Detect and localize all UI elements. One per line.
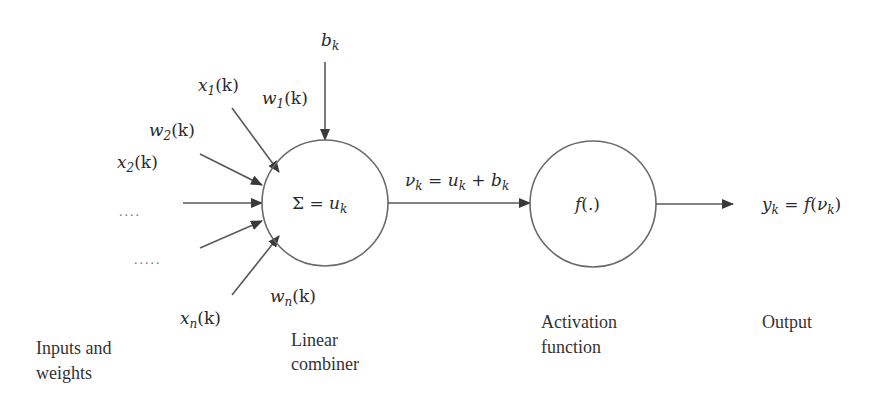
label-x1: x1(k) [198,75,239,98]
caption-linear-combiner-line2: combiner [291,354,359,374]
caption-linear-combiner-line1: Linear [291,330,338,350]
caption-output: Output [762,312,812,332]
label-bias: bk [321,30,339,53]
label-wn: wn(k) [270,286,316,309]
label-x2: x2(k) [117,152,158,175]
dots-upper: .... [119,204,141,219]
label-induced-field: νk = uk + bk [405,170,509,193]
dots-lower: ..... [134,252,162,267]
label-w2: w2(k) [149,120,195,143]
label-activation-function: f(.) [573,194,600,214]
caption-activation-line1: Activation [541,312,617,332]
label-xn: xn(k) [180,308,221,331]
caption-activation-line2: function [541,337,601,357]
label-w1: w1(k) [262,88,308,111]
label-summation: Σ = uk [292,193,347,216]
label-output-equation: yk = f(νk) [761,194,841,217]
caption-inputs-weights-line1: Inputs and [36,338,112,358]
input-arrow-4 [200,221,262,248]
input-arrow-2 [200,154,262,185]
caption-inputs-weights-line2: weights [36,363,92,383]
input-arrow-1 [232,108,279,172]
neuron-diagram: x1(k) w1(k) w2(k) x2(k) .... ..... wn(k)… [0,0,876,411]
